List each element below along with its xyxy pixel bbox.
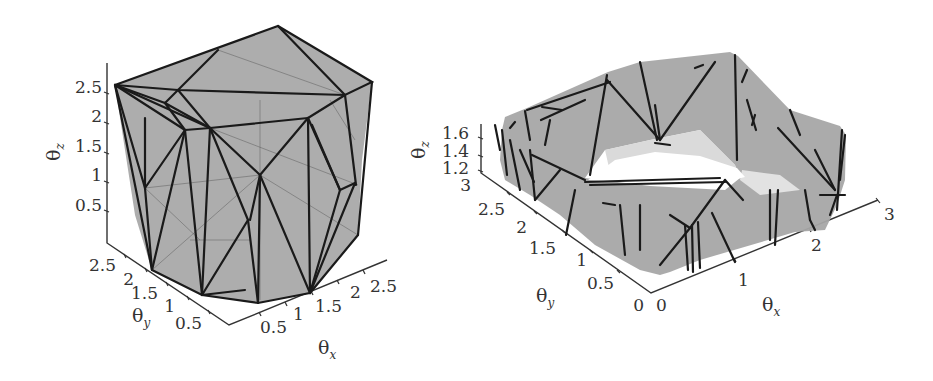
left-z-axis-label: θz [42,142,67,160]
right-x-tick-label: 2 [811,235,822,255]
figure-canvas: 2.5 2 1.5 1 0.5 θz 2.5 2 1.5 1 0.5 θy 0.… [0,0,933,381]
left-x-tick-label: 2 [350,282,361,302]
left-z-label-sub: z [53,142,67,150]
left-y-axis-label: θy [132,304,150,330]
right-z-tick-label: 1.6 [442,123,469,143]
left-y-label-sub: y [142,316,150,330]
right-z-axis-label: θz [407,140,432,158]
right-x-tick-label: 1 [738,270,749,290]
right-z-label-sub: z [418,140,432,148]
left-y-label-base: θ [132,304,143,326]
left-x-tick-label: 1 [293,304,304,324]
svg-text:θz: θz [42,142,67,160]
left-polyhedron [115,26,372,303]
svg-text:θz: θz [407,140,432,158]
right-y-tick-label: 0 [633,295,644,315]
right-y-tick-label: 1.5 [529,238,556,258]
right-y-axis-label: θy [536,284,554,310]
left-z-tick-label: 0.5 [75,195,102,215]
right-x-tick-label: 0 [656,295,667,315]
left-x-label-sub: x [329,348,336,362]
right-y-label-base: θ [536,284,547,306]
right-y-label-sub: y [546,296,554,310]
left-z-tick-label: 1 [91,165,102,185]
left-z-label-base: θ [42,149,64,160]
right-x-axis-label: θx [762,293,780,319]
right-y-tick-label: 0.5 [587,273,614,293]
right-y-tick-label: 2.5 [478,199,505,219]
left-x-tick [285,302,287,306]
right-3d-plot: 1.6 1.4 1.2 θz 3 2.5 2 1.5 1 0.5 0 θy 0 … [407,52,895,319]
left-y-tick-label: 0.5 [175,313,202,333]
right-x-tick-label: 3 [884,204,895,224]
left-x-axis-label: θx [318,336,336,362]
left-3d-plot: 2.5 2 1.5 1 0.5 θz 2.5 2 1.5 1 0.5 θy 0.… [42,26,397,362]
left-y-tick-label: 2.5 [89,255,116,275]
left-x-label-base: θ [318,336,329,358]
left-x-tick [363,270,365,274]
left-y-tick-label: 1 [164,296,175,316]
right-y-tick-label: 2 [516,217,527,237]
left-y-tick-label: 1.5 [131,283,158,303]
left-z-tick-labels: 2.5 2 1.5 1 0.5 [75,77,102,215]
right-y-tick-label: 1 [576,250,587,270]
left-z-tick-label: 2 [91,106,102,126]
right-z-label-base: θ [407,147,429,158]
left-z-tick-label: 1.5 [75,136,102,156]
left-x-tick-label: 1.5 [315,296,342,316]
right-x-label-sub: x [773,305,780,319]
left-x-tick-label: 2.5 [370,276,397,296]
left-x-tick-label: 0.5 [260,317,287,337]
right-y-tick-label: 3 [460,175,471,195]
right-z-tick-labels: 1.6 1.4 1.2 [442,123,469,178]
left-z-tick-label: 2.5 [75,77,102,97]
right-x-label-base: θ [762,293,773,315]
